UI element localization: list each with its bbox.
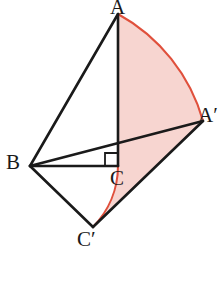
vertex-label-a-prime: Aʹ	[198, 105, 218, 126]
vertex-label-a: A	[110, 0, 125, 18]
segment-a-b	[30, 14, 118, 166]
diagram-canvas	[0, 0, 222, 297]
vertex-label-c-prime: Cʹ	[77, 229, 96, 250]
swept-sector-fill	[93, 14, 203, 227]
segment-b-c-prime	[30, 166, 93, 227]
vertex-label-c: C	[110, 168, 124, 189]
geometry-figure: A Aʹ B C Cʹ	[0, 0, 222, 297]
vertex-label-b: B	[6, 152, 20, 173]
right-angle-marker	[105, 153, 118, 166]
